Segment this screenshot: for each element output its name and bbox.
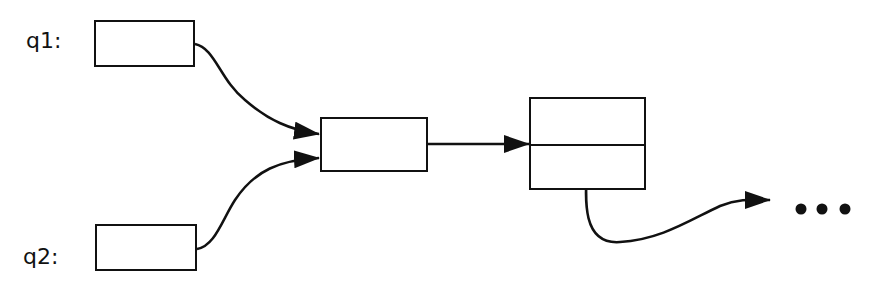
diagram-canvas: q1: q2: — [0, 0, 879, 291]
q2-label: q2: — [23, 244, 58, 269]
continuation-ellipsis — [796, 204, 851, 215]
cell-box-lower-field — [531, 146, 644, 188]
q1-box — [94, 20, 195, 67]
edge-q1-to-merge — [195, 44, 319, 134]
cell-box-upper-field — [531, 99, 644, 146]
q2-box — [95, 224, 197, 271]
q1-label: q1: — [26, 28, 61, 53]
cell-box — [529, 97, 646, 190]
merge-box — [320, 117, 428, 172]
edge-q2-to-merge — [197, 158, 319, 249]
